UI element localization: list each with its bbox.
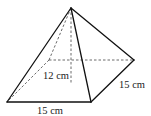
base-side-label: 15 cm — [119, 79, 145, 90]
hidden-edge-left — [7, 60, 49, 102]
pyramid-diagram: 12 cm 15 cm 15 cm — [0, 0, 151, 116]
base-front-label: 15 cm — [37, 105, 63, 116]
edge-apex-front-left — [7, 8, 71, 102]
height-label: 12 cm — [43, 70, 69, 81]
hidden-edge-apex-back-left — [49, 8, 71, 60]
